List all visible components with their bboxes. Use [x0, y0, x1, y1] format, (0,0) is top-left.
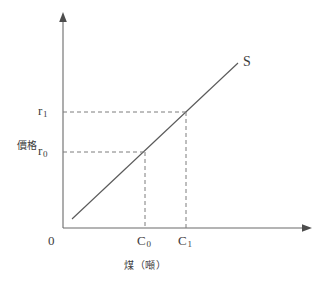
origin-label: 0 [48, 234, 55, 247]
y-tick-r1-subscript: 1 [43, 109, 48, 119]
supply-curve-line [72, 63, 238, 219]
y-tick-r1-base: r [38, 103, 43, 118]
x-axis-tick-label-c0: C0 [137, 234, 151, 247]
y-tick-r0-subscript: 0 [43, 149, 48, 159]
x-axis-title: 煤（噸） [124, 261, 166, 271]
y-axis-tick-label-r0: r0 [38, 144, 47, 157]
x-tick-c0-base: C [137, 233, 146, 248]
supply-curve-figure: r1 r0 C0 C1 0 S 價格 煤（噸） [0, 0, 326, 288]
supply-curve-label: S [243, 55, 251, 69]
x-axis-arrow-icon [302, 224, 312, 232]
y-tick-r0-base: r [38, 143, 43, 158]
y-axis-tick-label-r1: r1 [38, 104, 47, 117]
x-axis-tick-label-c1: C1 [178, 234, 192, 247]
x-tick-c0-subscript: 0 [146, 239, 151, 249]
y-axis-arrow-icon [59, 12, 67, 22]
x-tick-c1-subscript: 1 [187, 239, 192, 249]
y-axis-title: 價格 [17, 140, 29, 152]
x-tick-c1-base: C [178, 233, 187, 248]
